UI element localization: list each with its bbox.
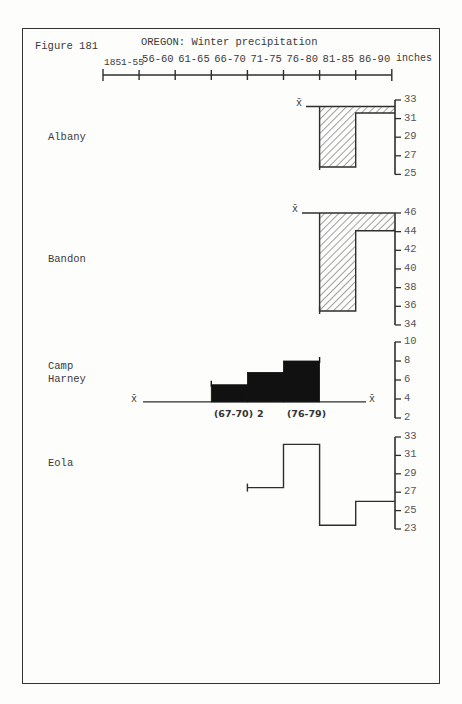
y-tick-label: 29 bbox=[404, 130, 417, 142]
solid-bar bbox=[247, 372, 283, 401]
y-tick-label: 4 bbox=[404, 392, 410, 404]
solid-bar bbox=[284, 361, 320, 402]
y-tick-label: 2 bbox=[404, 411, 410, 423]
annotation-76-79: (76-79) bbox=[287, 408, 326, 419]
y-tick-label: 10 bbox=[404, 335, 417, 347]
y-tick-label: 46 bbox=[404, 206, 417, 218]
y-tick-label: 29 bbox=[404, 467, 417, 479]
hatched-bar bbox=[320, 213, 356, 311]
step-line bbox=[247, 444, 395, 525]
mean-label-right: x̄ bbox=[369, 394, 375, 405]
annotation-67-70: (67-70) bbox=[214, 408, 253, 419]
y-tick-label: 6 bbox=[404, 373, 410, 385]
y-tick-label: 23 bbox=[404, 522, 417, 534]
y-tick-label: 27 bbox=[404, 485, 417, 497]
y-tick-label: 27 bbox=[404, 149, 417, 161]
y-tick-label: 25 bbox=[404, 167, 417, 179]
y-tick-label: 25 bbox=[404, 504, 417, 516]
y-tick-label: 31 bbox=[404, 112, 417, 124]
annotation-2: 2 bbox=[257, 408, 264, 419]
mean-label-left: x̄ bbox=[131, 394, 137, 405]
y-tick-label: 40 bbox=[404, 262, 417, 274]
y-tick-label: 36 bbox=[404, 299, 417, 311]
y-tick-label: 33 bbox=[404, 430, 417, 442]
y-tick-label: 38 bbox=[404, 281, 417, 293]
mean-label: x̄ bbox=[292, 204, 298, 215]
y-tick-label: 31 bbox=[404, 448, 417, 460]
y-tick-label: 44 bbox=[404, 225, 417, 237]
y-tick-label: 34 bbox=[404, 318, 417, 330]
y-tick-label: 33 bbox=[404, 93, 417, 105]
y-tick-label: 42 bbox=[404, 243, 417, 255]
solid-bar bbox=[211, 385, 247, 402]
y-tick-label: 8 bbox=[404, 354, 410, 366]
hatched-bar bbox=[356, 107, 395, 114]
precipitation-chart bbox=[0, 0, 462, 704]
mean-label: x̄ bbox=[296, 98, 302, 109]
hatched-bar bbox=[356, 213, 395, 231]
hatched-bar bbox=[320, 107, 356, 167]
